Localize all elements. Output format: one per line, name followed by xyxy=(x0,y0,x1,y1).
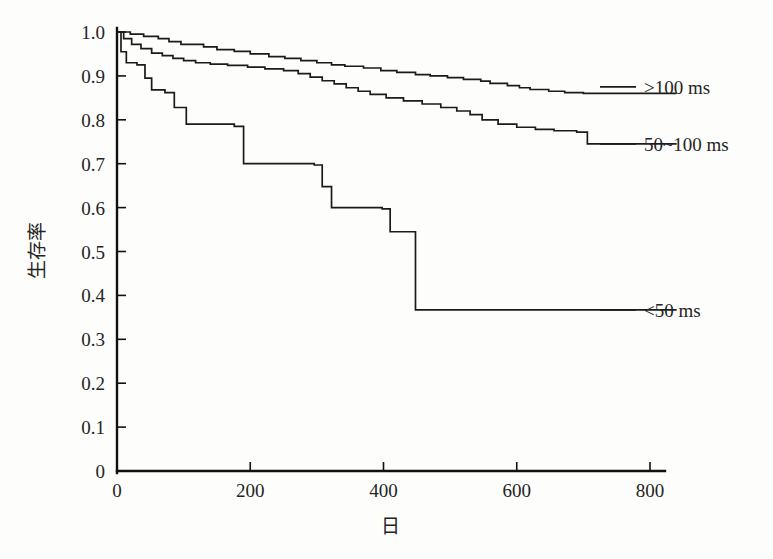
y-tick-label: 0.4 xyxy=(81,285,105,306)
y-tick-label: 0.2 xyxy=(81,373,105,394)
y-axis-title: 生存率 xyxy=(27,222,48,279)
legend-label-1: >100 ms xyxy=(644,77,710,98)
y-tick-label: 0.9 xyxy=(81,66,105,87)
x-tick-label: 600 xyxy=(503,480,532,501)
y-tick-label: 0.7 xyxy=(81,154,105,175)
y-tick-label: 0.5 xyxy=(81,242,105,263)
x-tick-label: 800 xyxy=(636,480,665,501)
y-tick-label: 0 xyxy=(96,461,106,482)
x-tick-label: 200 xyxy=(236,480,265,501)
y-tick-label: 0.3 xyxy=(81,329,105,350)
figure-root: 00.10.20.30.40.50.60.70.80.91.0 02004006… xyxy=(0,0,773,559)
y-tick-label: 0.8 xyxy=(81,110,105,131)
y-tick-label: 0.1 xyxy=(81,417,105,438)
kaplan-meier-chart: 00.10.20.30.40.50.60.70.80.91.0 02004006… xyxy=(0,0,773,559)
legend-label-2: 50~100 ms xyxy=(644,134,729,155)
x-tick-label: 0 xyxy=(112,480,122,501)
x-axis-title: 日 xyxy=(381,516,400,537)
y-tick-label: 0.6 xyxy=(81,198,105,219)
y-tick-label: 1.0 xyxy=(81,22,105,43)
legend-label-3: <50 ms xyxy=(644,300,701,321)
x-tick-label: 400 xyxy=(369,480,398,501)
